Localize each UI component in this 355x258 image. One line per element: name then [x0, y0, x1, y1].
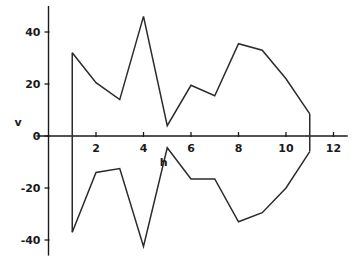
upper-envelope-line	[72, 16, 310, 125]
x-tick-label: 4	[140, 142, 148, 155]
lower-envelope-line	[72, 148, 310, 247]
data-series-group	[72, 16, 310, 246]
y-tick-label: 20	[25, 78, 41, 91]
y-axis-ticks: 40200-20-40	[21, 26, 50, 247]
x-tick-label: 8	[235, 142, 243, 155]
envelope-chart: 40200-20-40 24681012 v h	[0, 0, 355, 258]
y-tick-label: 0	[33, 130, 41, 143]
y-axis-title: v	[14, 116, 22, 129]
x-tick-label: 6	[187, 142, 195, 155]
y-tick-label: -40	[21, 234, 41, 247]
y-tick-label: -20	[21, 182, 41, 195]
axes-group	[37, 6, 348, 256]
y-tick-label: 40	[25, 26, 41, 39]
x-axis-title: h	[160, 156, 168, 169]
chart-container: 40200-20-40 24681012 v h	[0, 0, 355, 258]
x-tick-label: 12	[326, 142, 341, 155]
x-tick-label: 10	[278, 142, 294, 155]
x-tick-label: 2	[92, 142, 100, 155]
